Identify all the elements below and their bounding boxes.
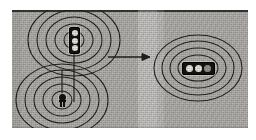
lamp-top-icon: [72, 30, 78, 36]
lamp-bottom-icon: [72, 45, 78, 51]
horizontal-traffic-signal: [182, 62, 215, 75]
plate-bottom-rule: [12, 127, 248, 128]
post-leg-left-icon: [60, 100, 62, 107]
lamp-right-icon: [204, 65, 211, 72]
lamp-middle-icon: [72, 38, 78, 44]
vertical-traffic-signal: [69, 27, 80, 54]
post-leg-right-icon: [63, 100, 65, 107]
transform-arrow: [108, 54, 150, 61]
photo-plate: [12, 10, 248, 128]
lamp-center-icon: [195, 65, 202, 72]
figure-canvas: [0, 0, 256, 140]
post-marker: [58, 94, 67, 107]
lamp-left-icon: [186, 65, 193, 72]
